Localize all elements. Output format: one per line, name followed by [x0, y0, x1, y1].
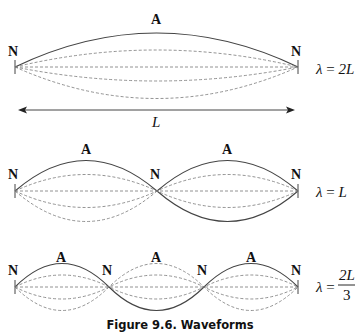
dashed-wave [15, 50, 298, 67]
node-label: N [102, 263, 112, 278]
antinode-label: A [151, 250, 162, 265]
wavelength-equation: λ = L [315, 184, 347, 200]
waveform-third-harmonic: N N N N A A A λ = 2L 3 [8, 250, 355, 311]
dashed-wave [15, 67, 298, 99]
antinode-label: A [222, 142, 233, 157]
antinode-label: A [246, 250, 257, 265]
svg-text:λ =: λ = [315, 279, 335, 295]
antinode-label: A [81, 142, 92, 157]
dashed-wave [15, 67, 298, 81]
waveform-fundamental: N N A λ = 2L L [8, 12, 354, 130]
wavelength-equation: λ = 2L 3 [315, 267, 355, 303]
fraction-numerator: 2L [339, 267, 355, 283]
node-label: N [8, 263, 18, 278]
node-label: N [150, 167, 160, 182]
waveforms-figure: N N A λ = 2L L N N N A A λ = L N N [0, 0, 360, 334]
length-label: L [151, 114, 160, 130]
antinode-label: A [56, 250, 67, 265]
antinode-label: A [151, 12, 162, 27]
node-label: N [197, 263, 207, 278]
figure-caption: Figure 9.6. Waveforms [106, 318, 253, 332]
dashed-wave [15, 191, 157, 222]
solid-wave [157, 161, 298, 192]
node-label: N [291, 167, 301, 182]
fraction-denominator: 3 [343, 287, 351, 303]
node-label: N [8, 167, 18, 182]
node-label: N [8, 44, 18, 59]
waveform-second-harmonic: N N N A A λ = L [8, 142, 347, 222]
node-label: N [291, 263, 301, 278]
wavelength-equation: λ = 2L [315, 61, 354, 77]
node-label: N [291, 44, 301, 59]
